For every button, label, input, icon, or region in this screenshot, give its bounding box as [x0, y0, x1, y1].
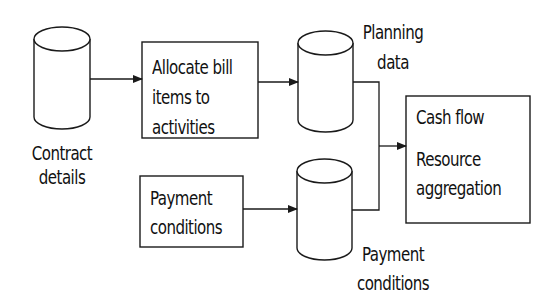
label-cash-flow-resource-aggregation: Cash flow Resource aggregation [416, 105, 501, 203]
cylinder-payment-conditions [297, 159, 352, 260]
label-line: Contract [25, 141, 99, 165]
label-line: conditions [353, 269, 432, 298]
label-payment-conditions-process: Payment conditions [150, 184, 222, 242]
label-line: Payment [150, 184, 222, 213]
label-line: Payment [353, 240, 432, 269]
label-planning-data: Planning data [360, 17, 425, 77]
label-line: activities [152, 112, 232, 142]
line-planning-to-junction [353, 82, 379, 146]
label-line: Allocate bill [152, 52, 232, 82]
line-payment-store-to-junction [352, 146, 379, 210]
label-line: conditions [150, 213, 222, 242]
label-contract-details: Contract details [25, 141, 99, 189]
label-line: details [25, 165, 99, 189]
label-allocate-bill-items: Allocate bill items to activities [152, 52, 232, 142]
label-line: Cash flow [416, 105, 501, 129]
label-line: Resource [416, 145, 501, 174]
label-payment-conditions-store: Payment conditions [353, 240, 432, 298]
label-line: data [360, 47, 425, 77]
label-line: Planning [360, 17, 425, 47]
cylinder-planning-data [298, 31, 353, 132]
cylinder-contract-details [34, 27, 90, 129]
label-line: aggregation [416, 174, 501, 203]
label-line: items to [152, 82, 232, 112]
